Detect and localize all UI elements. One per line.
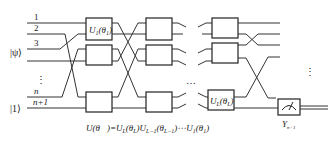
wire-label-n-plus-1: n+1	[33, 97, 48, 107]
quantum-circuit-diagram: 1 2 3 n n+1 ⋮ |ψ⟩ |1⟩ ⋮ … U1(θ1) UL(θL) …	[0, 0, 336, 147]
output-wires	[234, 23, 280, 108]
stubs-col2	[172, 23, 186, 108]
equation: U(θ⃗)=UL(θL)UL−1(θL−1)⋯U1(θ1)	[86, 123, 209, 134]
measurement-gate	[278, 99, 328, 115]
input-state-psi: |ψ⟩	[10, 47, 22, 58]
wire-label-2: 2	[34, 23, 39, 33]
gate-ul-label: UL(θL)	[210, 96, 234, 107]
gate-u1-label: U1(θ1)	[89, 25, 112, 36]
vertical-ellipsis-right: ⋮	[305, 66, 315, 77]
wire-label-n: n	[34, 86, 39, 96]
gate-column-2	[146, 18, 172, 112]
vertical-ellipsis: ⋮	[36, 74, 46, 85]
input-state-one: |1⟩	[10, 103, 21, 114]
measurement-label: Yn+1	[282, 119, 295, 130]
wire-label-3: 3	[34, 38, 39, 48]
horizontal-ellipsis: …	[186, 75, 196, 86]
wire-label-1: 1	[34, 12, 39, 22]
interlayer-wires-1	[112, 23, 146, 108]
